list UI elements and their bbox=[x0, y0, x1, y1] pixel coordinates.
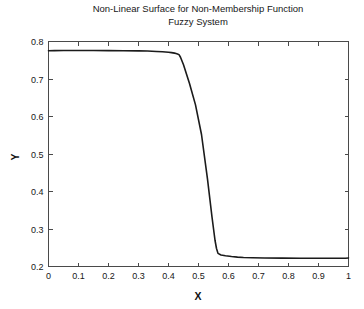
x-tick-label: 0.1 bbox=[72, 271, 85, 281]
chart-figure: Non-Linear Surface for Non-Membership Fu… bbox=[0, 0, 364, 309]
x-tick-label: 0 bbox=[46, 271, 51, 281]
y-tick-label: 0.6 bbox=[31, 112, 44, 122]
y-tick-label: 0.8 bbox=[31, 37, 44, 47]
x-tick-label: 1 bbox=[346, 271, 351, 281]
x-tick-label: 0.7 bbox=[252, 271, 265, 281]
y-tick-label: 0.7 bbox=[31, 75, 44, 85]
x-tick-label: 0.3 bbox=[132, 271, 145, 281]
chart-title-line-2: Fuzzy System bbox=[168, 16, 228, 27]
chart-title-line-1: Non-Linear Surface for Non-Membership Fu… bbox=[93, 3, 304, 14]
x-tick-label: 0.8 bbox=[282, 271, 295, 281]
x-axis-title: X bbox=[194, 290, 201, 302]
x-tick-label: 0.6 bbox=[222, 271, 235, 281]
x-tick-label: 0.5 bbox=[192, 271, 205, 281]
y-tick-label: 0.2 bbox=[31, 262, 44, 272]
y-axis-title: Y bbox=[9, 153, 21, 160]
y-tick-label: 0.5 bbox=[31, 150, 44, 160]
x-tick-label: 0.2 bbox=[102, 271, 115, 281]
y-tick-label: 0.4 bbox=[31, 187, 44, 197]
figure-background bbox=[0, 0, 364, 309]
x-tick-label: 0.9 bbox=[312, 271, 325, 281]
y-tick-label: 0.3 bbox=[31, 225, 44, 235]
x-tick-label: 0.4 bbox=[162, 271, 175, 281]
